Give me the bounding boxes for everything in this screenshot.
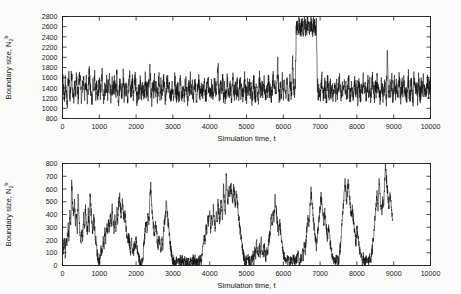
- x-tick-label: 4000: [202, 270, 218, 278]
- y-axis-label: Boundary size, N2b: [3, 36, 13, 100]
- y-tick-label: 1000: [42, 105, 58, 113]
- chart-panel-top: 8001000120014001600180020002200240026002…: [0, 0, 461, 147]
- y-tick-label: 1800: [42, 64, 58, 72]
- x-tick-label: 1000: [91, 270, 107, 278]
- x-tick-label: 7000: [312, 270, 328, 278]
- y-tick-label: 700: [46, 173, 58, 181]
- y-tick-label: 800: [46, 160, 58, 168]
- x-tick-label: 5000: [239, 123, 255, 131]
- y-tick-label: 2400: [42, 34, 58, 42]
- y-tick-label: 1400: [42, 85, 58, 93]
- y-tick-label: 800: [46, 115, 58, 123]
- x-tick-label: 3000: [165, 270, 181, 278]
- x-tick-label: 8000: [349, 123, 365, 131]
- x-tick-label: 10000: [421, 123, 441, 131]
- x-tick-label: 1000: [91, 123, 107, 131]
- svg-text:Boundary size, N2b: Boundary size, N2b: [3, 36, 13, 100]
- x-tick-label: 9000: [386, 270, 402, 278]
- y-tick-label: 300: [46, 224, 58, 232]
- x-tick-label: 6000: [275, 123, 291, 131]
- x-tick-label: 2000: [128, 270, 144, 278]
- y-tick-label: 400: [46, 211, 58, 219]
- x-tick-label: 4000: [202, 123, 218, 131]
- x-tick-label: 6000: [275, 270, 291, 278]
- x-tick-label: 5000: [239, 270, 255, 278]
- x-tick-label: 2000: [128, 123, 144, 131]
- y-tick-label: 0: [54, 262, 58, 270]
- y-tick-label: 2600: [42, 23, 58, 31]
- y-tick-label: 1600: [42, 74, 58, 82]
- y-tick-label: 600: [46, 186, 58, 194]
- chart-panel-bottom: 0100200300400500600700800010002000300040…: [0, 147, 461, 294]
- figure-container: 8001000120014001600180020002200240026002…: [0, 0, 461, 294]
- x-tick-label: 9000: [386, 123, 402, 131]
- y-tick-label: 2000: [42, 54, 58, 62]
- y-tick-label: 500: [46, 198, 58, 206]
- bottom-chart-svg: 0100200300400500600700800010002000300040…: [0, 147, 461, 294]
- y-tick-label: 200: [46, 237, 58, 245]
- x-tick-label: 0: [61, 270, 65, 278]
- x-axis-label: Simulation time, t: [217, 134, 276, 143]
- y-tick-label: 100: [46, 249, 58, 257]
- y-tick-label: 2800: [42, 13, 58, 21]
- svg-text:Boundary size, N2b: Boundary size, N2b: [3, 183, 13, 247]
- x-tick-label: 7000: [312, 123, 328, 131]
- x-tick-label: 0: [61, 123, 65, 131]
- y-tick-label: 1200: [42, 95, 58, 103]
- x-axis-label: Simulation time, t: [217, 281, 276, 290]
- x-tick-label: 10000: [421, 270, 441, 278]
- y-tick-label: 2200: [42, 44, 58, 52]
- x-tick-label: 3000: [165, 123, 181, 131]
- x-tick-label: 8000: [349, 270, 365, 278]
- top-chart-svg: 8001000120014001600180020002200240026002…: [0, 0, 461, 147]
- y-axis-label: Boundary size, N2b: [3, 183, 13, 247]
